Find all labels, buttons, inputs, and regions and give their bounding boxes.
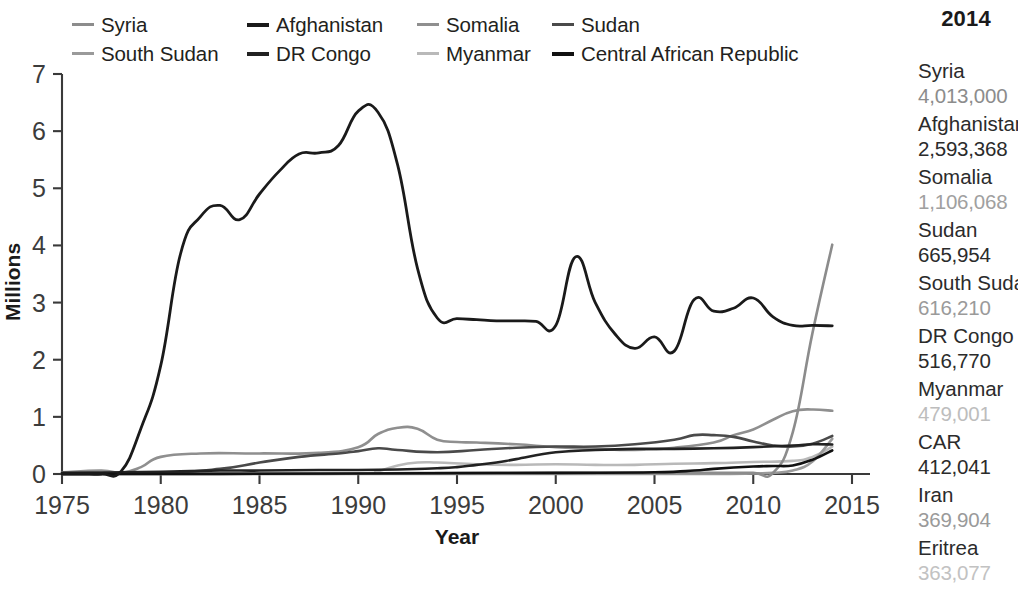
panel-entry-name: Eritrea [918,535,1018,560]
side-data-panel: 2014 Syria4,013,000Afghanistan2,593,368S… [900,0,1018,598]
series-line-afghanistan [62,104,832,476]
legend-item-label: Somalia [446,13,519,37]
panel-entry: CAR412,041 [918,429,1018,480]
legend-line-swatch-icon [552,23,574,26]
legend-line-swatch-icon [72,23,94,26]
x-tick-label: 2015 [824,491,880,519]
panel-entry: South Sudan616,210 [918,270,1018,321]
panel-entry-list: Syria4,013,000Afghanistan2,593,368Somali… [918,58,1018,586]
panel-entry-value: 363,077 [918,560,1018,586]
x-tick-label: 2010 [725,491,781,519]
y-tick-label: 5 [32,174,46,202]
y-tick-label: 1 [32,403,46,431]
x-tick-label: 1980 [133,491,189,519]
x-tick-label: 2005 [627,491,683,519]
legend-item-label: Sudan [581,13,640,37]
panel-entry-value: 2,593,368 [918,136,1018,162]
panel-entry-name: Syria [918,58,1018,83]
panel-entry-name: Myanmar [918,376,1018,401]
y-tick-label: 4 [32,231,46,259]
panel-entry-value: 665,954 [918,242,1018,268]
x-axis-title: Year [435,525,479,548]
legend-item-label: Syria [101,13,147,37]
legend-line-swatch-icon [247,52,269,56]
panel-entry-value: 1,106,068 [918,189,1018,215]
panel-entry-name: Afghanistan [918,111,1018,136]
x-tick-label: 1995 [429,491,485,519]
panel-entry-value: 369,904 [918,507,1018,533]
panel-entry: DR Congo516,770 [918,323,1018,374]
chart-column: SyriaAfghanistanSomaliaSudanSouth SudanD… [0,0,900,598]
panel-entry-value: 412,041 [918,454,1018,480]
panel-entry-name: Sudan [918,217,1018,242]
x-tick-label: 1975 [34,491,90,519]
plot-area: 0123456719751980198519901995200020052010… [0,58,900,558]
chart-page: SyriaAfghanistanSomaliaSudanSouth SudanD… [0,0,1018,598]
panel-entry: Eritrea363,077 [918,535,1018,586]
panel-entry-name: DR Congo [918,323,1018,348]
legend-line-swatch-icon [72,52,94,55]
panel-year-header: 2014 [918,6,1018,32]
y-tick-label: 7 [32,60,46,88]
legend-line-swatch-icon [247,23,269,27]
legend-line-swatch-icon [552,52,574,56]
panel-entry: Sudan665,954 [918,217,1018,268]
panel-entry-name: Somalia [918,164,1018,189]
panel-entry-name: Iran [918,482,1018,507]
panel-entry: Iran369,904 [918,482,1018,533]
y-tick-label: 0 [32,460,46,488]
y-tick-label: 2 [32,346,46,374]
legend-item-label: Afghanistan [276,13,383,37]
legend-item-syria[interactable]: Syria [72,13,247,37]
panel-entry-name: South Sudan [918,270,1018,295]
panel-entry-value: 616,210 [918,295,1018,321]
legend-item-sudan[interactable]: Sudan [552,13,862,37]
y-axis-title: Millions [1,243,24,321]
x-tick-label: 1985 [232,491,288,519]
legend-item-afghanistan[interactable]: Afghanistan [247,13,417,37]
x-tick-label: 1990 [330,491,386,519]
panel-entry: Somalia1,106,068 [918,164,1018,215]
y-tick-label: 3 [32,289,46,317]
panel-entry: Afghanistan2,593,368 [918,111,1018,162]
y-tick-label: 6 [32,117,46,145]
panel-entry: Myanmar479,001 [918,376,1018,427]
panel-entry-value: 4,013,000 [918,83,1018,109]
panel-entry-value: 516,770 [918,348,1018,374]
x-tick-label: 2000 [528,491,584,519]
line-chart-svg: 0123456719751980198519901995200020052010… [0,58,900,558]
legend-line-swatch-icon [417,52,439,55]
legend-line-swatch-icon [417,23,439,26]
legend-item-somalia[interactable]: Somalia [417,13,552,37]
panel-entry-value: 479,001 [918,401,1018,427]
panel-entry-name: CAR [918,429,1018,454]
panel-entry: Syria4,013,000 [918,58,1018,109]
